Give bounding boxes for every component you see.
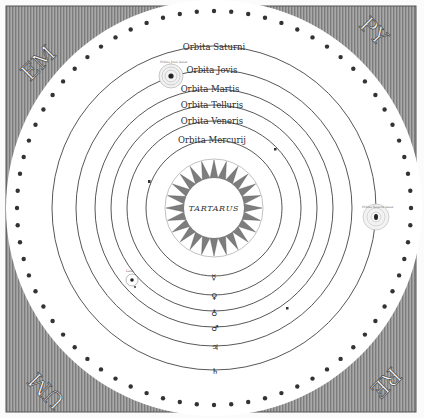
star-dot (195, 10, 199, 14)
star-dot (15, 206, 19, 210)
earth-symbol-icon: ♁ (211, 309, 217, 318)
mars-symbol-icon: ♂ (211, 324, 218, 333)
star-dot (18, 240, 22, 244)
star-dot (351, 345, 355, 349)
planet-venus-dot (274, 148, 277, 151)
star-dot (229, 402, 233, 406)
star-dot (178, 12, 182, 16)
star-dot (113, 376, 117, 380)
star-dot (402, 155, 406, 159)
star-dot (50, 93, 54, 97)
star-dot (33, 289, 37, 293)
star-dot (73, 67, 77, 71)
star-dot (27, 273, 31, 277)
star-dot (310, 376, 314, 380)
star-dot (390, 123, 394, 127)
label-orbita-jovis: Orbita Jovis (187, 65, 238, 75)
star-dot (373, 93, 377, 97)
star-dot (363, 79, 367, 83)
star-dot (408, 189, 412, 193)
star-dot (50, 319, 54, 323)
label-orbita-telluris: Orbita Telluris (181, 100, 243, 110)
star-dot (279, 391, 283, 395)
saturn-annotation: Orbita Saturni lunae (362, 205, 394, 209)
jupiter-symbol-icon: ♃ (211, 343, 218, 352)
earth-annotation: Luna (125, 269, 134, 273)
star-dot (263, 396, 267, 400)
star-dot (295, 27, 299, 31)
star-dot (406, 172, 410, 176)
star-dot (351, 67, 355, 71)
star-dot (129, 384, 133, 388)
star-dot (16, 223, 20, 227)
label-orbita-saturni: Orbita Saturni (183, 42, 246, 52)
star-dot (212, 403, 216, 407)
star-dot (406, 240, 410, 244)
star-dot (390, 289, 394, 293)
saturn-symbol-icon: ♄ (211, 367, 218, 376)
star-dot (144, 391, 148, 395)
star-dot (338, 55, 342, 59)
star-dot (178, 400, 182, 404)
star-dot (27, 138, 31, 142)
mercury-symbol-icon: ☿ (212, 273, 217, 282)
star-dot (408, 223, 412, 227)
star-dot (402, 257, 406, 261)
star-dot (246, 400, 250, 404)
star-dot (99, 44, 103, 48)
jupiter-annotation: Orbita Jovis lunae (160, 60, 187, 64)
star-dot (33, 123, 37, 127)
diagram-canvas: EM PY RE UM Orbita Saturni Orbita Jovis … (0, 0, 424, 418)
label-orbita-martis: Orbita Martis (181, 84, 240, 94)
tartarus-starburst: TARTARUS (166, 160, 262, 256)
tartarus-label: TARTARUS (189, 204, 239, 213)
star-dot (397, 273, 401, 277)
star-dot (310, 35, 314, 39)
planet-mercury-dot (148, 180, 151, 183)
star-dot (363, 332, 367, 336)
star-dot (22, 257, 26, 261)
label-orbita-mercurij: Orbita Mercurij (178, 135, 246, 145)
star-dot (61, 79, 65, 83)
star-dot (382, 107, 386, 111)
star-dot (161, 396, 165, 400)
star-dot (161, 16, 165, 20)
star-dot (325, 44, 329, 48)
venus-symbol-icon: ♀ (211, 292, 217, 301)
star-dot (22, 155, 26, 159)
star-dot (41, 107, 45, 111)
star-dot (212, 9, 216, 13)
star-dot (246, 12, 250, 16)
star-dot (144, 21, 148, 25)
star-dot (41, 304, 45, 308)
planet-mars-dot (286, 307, 289, 310)
cosmology-diagram: EM PY RE UM Orbita Saturni Orbita Jovis … (0, 0, 424, 418)
star-dot (325, 367, 329, 371)
star-dot (129, 27, 133, 31)
star-dot (73, 345, 77, 349)
star-dot (263, 16, 267, 20)
star-dot (61, 332, 65, 336)
star-dot (195, 402, 199, 406)
star-dot (279, 21, 283, 25)
star-dot (382, 304, 386, 308)
star-dot (113, 35, 117, 39)
star-dot (409, 206, 413, 210)
star-dot (99, 367, 103, 371)
star-dot (85, 55, 89, 59)
label-orbita-veneris: Orbita Veneris (181, 116, 243, 126)
star-dot (338, 357, 342, 361)
star-dot (229, 10, 233, 14)
star-dot (295, 384, 299, 388)
star-dot (373, 319, 377, 323)
star-dot (18, 172, 22, 176)
star-dot (397, 138, 401, 142)
star-dot (16, 189, 20, 193)
star-dot (85, 357, 89, 361)
